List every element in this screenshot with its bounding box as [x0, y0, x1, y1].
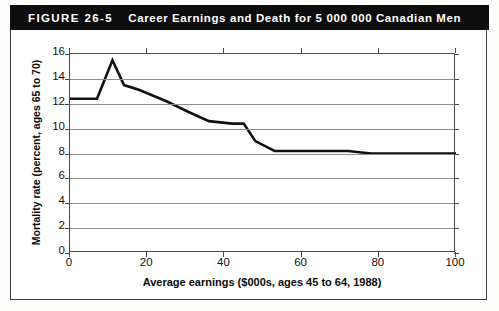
x-tick-mark-top [223, 48, 224, 53]
figure-number: FIGURE 26-5 [28, 12, 113, 24]
y-tick-label: 0 [40, 244, 65, 256]
x-tick-mark [378, 252, 379, 257]
y-tick-label: 4 [40, 194, 65, 206]
x-tick-label: 20 [140, 256, 153, 268]
y-tick-mark [65, 154, 70, 155]
gridline [70, 79, 454, 80]
x-axis-tick-labels: 0 20 40 60 80 100 [69, 256, 455, 272]
x-tick-mark [301, 252, 302, 257]
y-tick-label: 14 [40, 70, 65, 82]
gridline [70, 129, 454, 130]
y-tick-label: 8 [40, 145, 65, 157]
y-tick-mark [65, 228, 70, 229]
x-tick-mark-top [146, 48, 147, 53]
y-tick-mark [454, 178, 459, 179]
y-tick-mark [454, 203, 459, 204]
x-tick-mark-top [455, 48, 456, 53]
x-tick-mark [69, 252, 70, 257]
y-tick-mark [65, 129, 70, 130]
x-tick-mark-top [378, 48, 379, 53]
y-tick-mark [454, 129, 459, 130]
y-tick-mark [454, 104, 459, 105]
y-tick-label: 10 [40, 120, 65, 132]
y-tick-mark [65, 178, 70, 179]
y-tick-mark [454, 228, 459, 229]
figure-title-label: Career Earnings and Death for 5 000 000 … [128, 12, 461, 24]
x-tick-mark [146, 252, 147, 257]
x-tick-label: 100 [445, 256, 464, 268]
figure-container: FIGURE 26-5 Career Earnings and Death fo… [0, 0, 499, 311]
plot-area [69, 53, 455, 252]
x-tick-label: 80 [371, 256, 384, 268]
y-tick-mark [454, 79, 459, 80]
gridline [70, 203, 454, 204]
y-tick-label: 12 [40, 95, 65, 107]
x-tick-mark-top [69, 48, 70, 53]
gridline [70, 178, 454, 179]
y-tick-mark [65, 54, 70, 55]
x-axis-title: Average earnings ($000s, ages 45 to 64, … [69, 276, 455, 288]
x-tick-label: 0 [66, 256, 72, 268]
y-tick-mark [454, 154, 459, 155]
y-tick-mark [65, 203, 70, 204]
figure-title-bar: FIGURE 26-5 Career Earnings and Death fo… [10, 5, 489, 30]
x-tick-mark-top [301, 48, 302, 53]
gridline [70, 228, 454, 229]
figure-title-text: FIGURE 26-5 Career Earnings and Death fo… [10, 12, 461, 24]
x-tick-label: 40 [217, 256, 230, 268]
y-tick-label: 2 [40, 219, 65, 231]
x-tick-label: 60 [294, 256, 307, 268]
y-tick-mark [65, 104, 70, 105]
figure-title-spacer [117, 12, 125, 24]
gridline [70, 154, 454, 155]
y-tick-mark [454, 54, 459, 55]
x-tick-mark [455, 252, 456, 257]
y-tick-label: 16 [40, 45, 65, 57]
y-tick-label: 6 [40, 169, 65, 181]
gridline [70, 104, 454, 105]
y-axis-tick-labels: 0 2 4 6 8 10 12 14 16 [40, 53, 65, 252]
y-tick-mark [65, 79, 70, 80]
x-tick-mark [223, 252, 224, 257]
